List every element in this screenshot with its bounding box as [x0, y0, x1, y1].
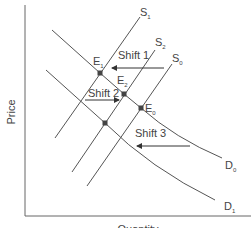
label-s2: S2	[155, 36, 166, 50]
shift-3-label: Shift 3	[135, 127, 166, 139]
label-d1: D1	[224, 200, 236, 214]
label-s0: S0	[172, 52, 183, 66]
equilibrium-point-e0	[139, 106, 144, 111]
label-e0: E0	[145, 102, 156, 116]
label-e1: E1	[93, 55, 104, 69]
y-axis-label: Price	[5, 99, 17, 124]
x-axis-label: Quantity	[118, 223, 159, 228]
shift-2-label: Shift 2	[88, 87, 119, 99]
equilibrium-point-e2	[122, 92, 127, 97]
intersection-point-s1-d1	[103, 121, 108, 126]
label-e2: E2	[117, 74, 128, 88]
shift-1-label: Shift 1	[118, 49, 149, 61]
label-s1: S1	[140, 6, 151, 20]
equilibrium-point-e1	[98, 71, 103, 76]
supply-curve-s1	[55, 17, 140, 138]
label-d0: D0	[225, 159, 237, 173]
demand-curve-d1	[46, 70, 215, 200]
supply-demand-diagram: Price Quantity S1 S2 S0 D0 D1 E1 E2 E0 S…	[0, 0, 251, 228]
